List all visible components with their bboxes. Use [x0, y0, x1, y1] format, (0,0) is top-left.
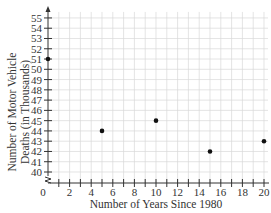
y-tick-label: 49	[31, 74, 43, 86]
x-tick-label: 4	[88, 186, 94, 198]
data-point	[154, 118, 159, 123]
y-tick-label: 54	[31, 22, 43, 34]
data-point	[208, 149, 213, 154]
y-tick-label: 53	[31, 32, 43, 44]
x-tick-label: 18	[237, 186, 249, 198]
y-axis-arrow-icon	[46, 6, 51, 12]
y-tick-label: 55	[31, 12, 43, 24]
y-axis-title-line1: Number of Motor Vehicle	[6, 53, 18, 172]
y-tick-label: 41	[31, 156, 42, 168]
y-tick-label: 50	[31, 63, 43, 75]
x-tick-label: 12	[172, 186, 183, 198]
y-tick-label: 47	[31, 94, 43, 106]
x-tick-label: 2	[67, 186, 73, 198]
scatter-chart: 40414243444546474849505152535455 0246810…	[0, 0, 270, 213]
y-tick-label: 52	[31, 43, 42, 55]
data-point	[46, 57, 51, 62]
x-tick-label: 10	[151, 186, 163, 198]
x-tick-label: 16	[215, 186, 227, 198]
y-tick-label: 46	[31, 104, 43, 116]
grid-lines	[48, 12, 268, 183]
data-point	[100, 129, 105, 134]
x-tick-label: 20	[259, 186, 271, 198]
x-tick-label: 6	[110, 186, 116, 198]
y-tick-label: 51	[31, 53, 42, 65]
x-tick-label: 8	[132, 186, 138, 198]
x-axis-title: Number of Years Since 1980	[90, 198, 223, 210]
x-tick-label: 0	[40, 186, 46, 198]
data-point	[262, 139, 267, 144]
y-tick-label: 48	[31, 84, 43, 96]
axes	[45, 6, 269, 183]
x-axis-ticks: 02468101214161820	[40, 179, 270, 198]
y-tick-label: 43	[31, 135, 43, 147]
axis-break-icon	[45, 177, 51, 183]
y-axis-title-line2: Deaths (in Thousands)	[19, 60, 32, 164]
x-tick-label: 14	[194, 186, 206, 198]
y-tick-label: 42	[31, 145, 42, 157]
y-axis-ticks: 40414243444546474849505152535455	[31, 12, 52, 178]
y-tick-label: 40	[31, 166, 43, 178]
y-tick-label: 44	[31, 125, 43, 137]
y-tick-label: 45	[31, 115, 43, 127]
